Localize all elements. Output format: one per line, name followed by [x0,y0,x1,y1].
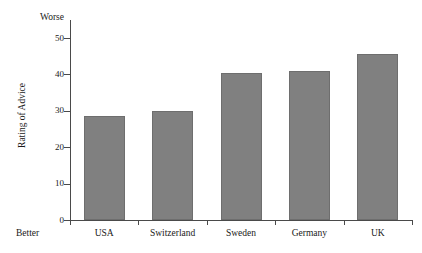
x-tick-mark [138,220,139,225]
x-axis-line [70,220,412,221]
bar-sweden [221,73,262,220]
bar-usa [84,116,125,220]
x-tick-mark [70,220,71,225]
y-tick-label: 50 [24,34,64,43]
y-axis-line [70,20,71,221]
axis-annotation-better: Better [16,228,39,239]
y-tick-label: 0 [24,216,64,225]
bar-chart: Worse Better Rating of Advice 0102030405… [0,0,422,253]
y-tick-mark [64,38,71,39]
y-tick-label: 20 [24,143,64,152]
x-category-label: UK [344,228,412,239]
y-tick-label: 40 [24,70,64,79]
y-tick-mark [64,184,71,185]
bar-switzerland [152,111,193,220]
y-tick-mark [64,147,71,148]
x-tick-mark [275,220,276,225]
x-tick-mark [207,220,208,225]
y-tick-mark [64,74,71,75]
y-tick-mark [64,111,71,112]
x-tick-mark [344,220,345,225]
y-tick-label: 30 [24,106,64,115]
x-category-label: Germany [275,228,343,239]
x-category-label: Sweden [207,228,275,239]
axis-annotation-worse: Worse [40,12,64,23]
bar-germany [289,71,330,220]
x-tick-mark [412,220,413,225]
y-tick-label: 10 [24,179,64,188]
bar-uk [357,54,398,220]
x-category-label: USA [70,228,138,239]
x-category-label: Switzerland [138,228,206,239]
